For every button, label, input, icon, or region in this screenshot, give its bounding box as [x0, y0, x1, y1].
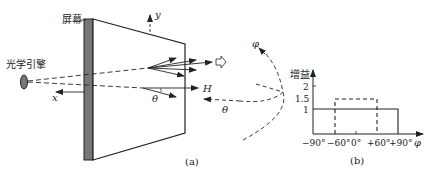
theta-arc [240, 92, 283, 102]
reference-line [256, 84, 283, 92]
x-tick-label-pos90: +90° [389, 138, 413, 148]
screen-edge [84, 19, 93, 160]
x-tick-label-pos60: +60° [367, 138, 391, 148]
phi-x-axis-label: φ [414, 137, 421, 148]
gain-y-axis-label: 增益 [290, 68, 310, 80]
y-tick-label-1: 1 [303, 105, 309, 115]
gain-curve-dashed [335, 99, 377, 134]
y-tick-label-1-5: 1.5 [295, 94, 310, 104]
figure-b-gain-chart: 增益 φ 2 1.5 1 −90° −60° 0° +60° +90° (b) [290, 68, 423, 166]
screen-surface [93, 19, 185, 160]
screen-label: 屏幕 [62, 13, 82, 25]
phi-arc [243, 50, 284, 140]
theta-arc-arrowhead [204, 99, 240, 101]
y-tick-label-2: 2 [303, 82, 309, 92]
x-tick-label-neg90: −90° [302, 138, 326, 148]
phi-arc-label: φ [252, 38, 259, 49]
optical-engine-label: 光学引擎 [6, 58, 46, 70]
figure-b-caption: (b) [350, 155, 364, 166]
figure-a-caption: (a) [185, 156, 199, 167]
gain-curve-solid [313, 109, 398, 134]
x-tick-label-neg60: −60° [327, 138, 351, 148]
theta-arc-label: θ [222, 104, 228, 115]
x-tick-label-0: 0° [351, 138, 361, 148]
output-hollow-arrow-icon [216, 56, 226, 68]
phi-arc-arrowhead [259, 48, 265, 54]
x-axis-label: x [52, 92, 58, 103]
theta-angle-label: θ [152, 93, 158, 104]
h-axis-label: H [202, 83, 212, 94]
figure-a: y 光学引擎 屏幕 H θ x (a) [6, 9, 226, 167]
optical-engine-icon [21, 75, 28, 89]
diagram-canvas: y 光学引擎 屏幕 H θ x (a) [0, 0, 440, 179]
y-axis-label: y [154, 9, 161, 20]
